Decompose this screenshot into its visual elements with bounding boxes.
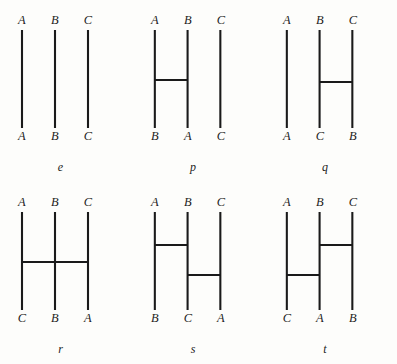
top-labels-t: ABC <box>265 194 397 210</box>
diagram-r: ABCCBAr <box>0 182 133 364</box>
top-labels-p: ABC <box>133 12 265 28</box>
top-label-2: B <box>51 194 59 210</box>
bottom-label-2: C <box>184 310 193 326</box>
bottom-label-1: A <box>283 128 291 144</box>
bottom-label-2: B <box>51 128 59 144</box>
bottom-label-2: C <box>316 128 325 144</box>
bottom-label-3: A <box>84 310 92 326</box>
bottom-label-1: A <box>18 128 26 144</box>
top-label-3: C <box>349 12 358 28</box>
top-label-3: C <box>217 12 226 28</box>
top-label-3: C <box>217 194 226 210</box>
top-label-2: B <box>316 12 324 28</box>
caption-text: s <box>191 342 196 356</box>
top-labels-q: ABC <box>265 12 397 28</box>
diagram-caption-e: e <box>0 160 133 174</box>
diagram-t: ABCCABt <box>265 182 397 364</box>
bottom-label-1: C <box>283 310 292 326</box>
caption-text: e <box>58 160 63 174</box>
bottom-labels-p: BAC <box>133 128 265 144</box>
diagram-s: ABCBCAs <box>133 182 265 364</box>
bottom-label-1: B <box>151 128 159 144</box>
diagram-caption-r: r <box>0 342 133 356</box>
diagram-e: ABCABCe <box>0 0 133 182</box>
top-label-3: C <box>349 194 358 210</box>
diagram-caption-p: p <box>133 160 265 174</box>
bottom-labels-r: CBA <box>0 310 133 326</box>
diagram-caption-s: s <box>133 342 265 356</box>
diagram-q: ABCACBq <box>265 0 397 182</box>
bottom-label-1: C <box>18 310 27 326</box>
top-labels-e: ABC <box>0 12 133 28</box>
top-label-1: A <box>18 194 26 210</box>
top-label-2: B <box>316 194 324 210</box>
caption-text: q <box>322 160 328 174</box>
diagram-p: ABCBACp <box>133 0 265 182</box>
bottom-label-2: B <box>51 310 59 326</box>
bottom-label-3: C <box>217 128 226 144</box>
bottom-label-1: B <box>151 310 159 326</box>
bottom-label-3: A <box>217 310 225 326</box>
top-label-1: A <box>151 12 159 28</box>
top-labels-s: ABC <box>133 194 265 210</box>
bottom-labels-t: CAB <box>265 310 397 326</box>
bottom-labels-q: ACB <box>265 128 397 144</box>
diagram-caption-q: q <box>265 160 397 174</box>
bottom-label-2: A <box>184 128 192 144</box>
caption-text: r <box>58 342 63 356</box>
top-label-2: B <box>51 12 59 28</box>
top-labels-r: ABC <box>0 194 133 210</box>
top-label-1: A <box>18 12 26 28</box>
top-label-1: A <box>283 12 291 28</box>
top-label-1: A <box>283 194 291 210</box>
top-label-2: B <box>184 12 192 28</box>
bottom-label-3: C <box>84 128 93 144</box>
diagram-grid: ABCABCeABCBACpABCACBqABCCBArABCBCAsABCCA… <box>0 0 397 364</box>
braid-diagram-figure: ABCABCeABCBACpABCACBqABCCBArABCBCAsABCCA… <box>0 0 397 364</box>
bottom-label-3: B <box>349 310 357 326</box>
bottom-labels-e: ABC <box>0 128 133 144</box>
top-label-1: A <box>151 194 159 210</box>
top-label-3: C <box>84 194 93 210</box>
bottom-label-2: A <box>316 310 324 326</box>
caption-text: p <box>190 160 196 174</box>
diagram-caption-t: t <box>265 342 397 356</box>
bottom-labels-s: BCA <box>133 310 265 326</box>
bottom-label-3: B <box>349 128 357 144</box>
caption-text: t <box>323 342 326 356</box>
top-label-2: B <box>184 194 192 210</box>
top-label-3: C <box>84 12 93 28</box>
